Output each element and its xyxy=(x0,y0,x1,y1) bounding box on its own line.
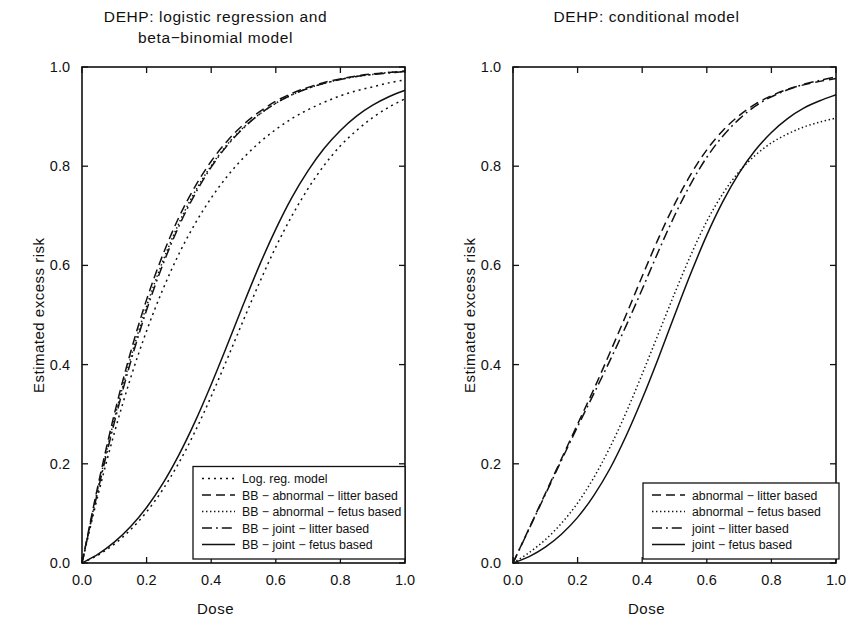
legend-label: BB − joint − fetus based xyxy=(242,538,373,552)
x-tick-label: 0.2 xyxy=(137,572,157,588)
figure-container: DEHP: logistic regression and beta−binom… xyxy=(0,0,862,633)
legend-label: abnormal − litter based xyxy=(692,489,818,503)
y-tick-label: 0.0 xyxy=(50,555,70,571)
x-tick-label: 1.0 xyxy=(826,572,846,588)
x-tick-label: 0.8 xyxy=(330,572,350,588)
panel-right: DEHP: conditional model Estimated excess… xyxy=(431,0,862,633)
panel-left-title: DEHP: logistic regression and beta−binom… xyxy=(0,6,431,48)
y-tick-label: 0.2 xyxy=(481,456,501,472)
y-tick-label: 0.8 xyxy=(50,158,70,174)
legend-label: BB − abnormal − litter based xyxy=(242,489,398,503)
panel-right-x-axis-title: Dose xyxy=(431,600,862,617)
x-tick-label: 0.0 xyxy=(72,572,92,588)
y-tick-label: 0.8 xyxy=(481,158,501,174)
panel-right-title: DEHP: conditional model xyxy=(431,6,862,27)
y-tick-label: 0.0 xyxy=(481,555,501,571)
x-tick-label: 1.0 xyxy=(395,572,415,588)
y-tick-label: 1.0 xyxy=(481,59,501,75)
legend-right: abnormal − litter basedabnormal − fetus … xyxy=(643,483,839,559)
panel-left-y-axis-title: Estimated excess risk xyxy=(30,237,47,393)
panel-right-plot: 0.00.20.40.60.81.00.00.20.40.60.81.0abno… xyxy=(431,0,862,633)
legend-label: abnormal − fetus based xyxy=(692,505,821,519)
panel-left: DEHP: logistic regression and beta−binom… xyxy=(0,0,431,633)
x-tick-label: 0.4 xyxy=(632,572,652,588)
x-tick-label: 0.8 xyxy=(761,572,781,588)
panel-left-x-axis-title: Dose xyxy=(0,600,431,617)
y-tick-label: 0.4 xyxy=(50,357,70,373)
x-tick-label: 0.0 xyxy=(503,572,523,588)
legend-label: BB − abnormal − fetus based xyxy=(242,505,401,519)
x-tick-label: 0.6 xyxy=(697,572,717,588)
x-tick-label: 0.4 xyxy=(201,572,221,588)
y-tick-label: 0.2 xyxy=(50,456,70,472)
y-tick-label: 1.0 xyxy=(50,59,70,75)
legend-left: Log. reg. modelBB − abnormal − litter ba… xyxy=(193,467,405,560)
y-tick-label: 0.6 xyxy=(50,257,70,273)
legend-label: joint − fetus based xyxy=(691,538,792,552)
legend-label: BB − joint − litter based xyxy=(242,522,369,536)
y-tick-label: 0.6 xyxy=(481,257,501,273)
y-tick-label: 0.4 xyxy=(481,357,501,373)
panel-left-plot: 0.00.20.40.60.81.00.00.20.40.60.81.0Log.… xyxy=(0,0,431,633)
panel-right-y-axis-title: Estimated excess risk xyxy=(461,237,478,393)
legend-label: joint − litter based xyxy=(691,522,789,536)
x-tick-label: 0.2 xyxy=(568,572,588,588)
legend-label: Log. reg. model xyxy=(242,472,327,486)
x-tick-label: 0.6 xyxy=(266,572,286,588)
